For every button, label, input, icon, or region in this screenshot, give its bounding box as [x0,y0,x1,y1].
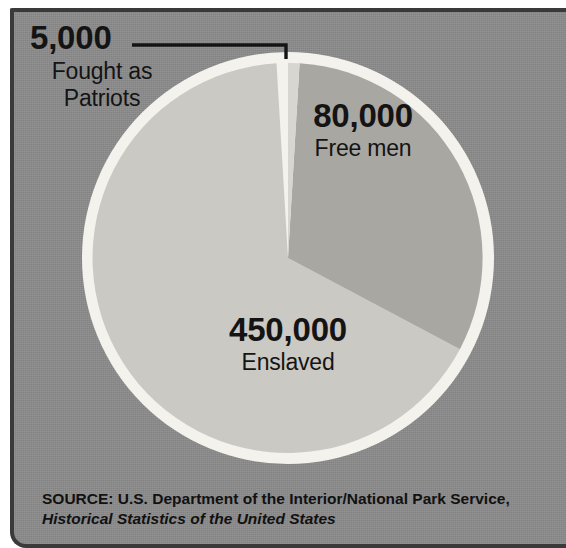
slice-value-free-men: 80,000 [268,98,458,134]
slice-value-enslaved: 450,000 [178,312,398,348]
figure-container: 5,000 Fought as Patriots 80,000 Free men… [0,0,566,548]
slice-value-patriots: 5,000 [22,20,182,56]
slice-caption-enslaved: Enslaved [178,350,398,375]
source-note: SOURCE: U.S. Department of the Interior/… [42,489,552,530]
slice-label-patriots: 5,000 Fought as Patriots [22,20,182,111]
slice-label-enslaved: 450,000 Enslaved [178,312,398,374]
slice-caption-patriots-line1: Fought as [22,59,182,84]
source-line-1: SOURCE: U.S. Department of the Interior/… [42,489,552,509]
slice-caption-free-men: Free men [268,136,458,161]
source-line-2: Historical Statistics of the United Stat… [42,509,552,529]
slice-caption-patriots-line2: Patriots [22,86,182,111]
slice-label-free-men: 80,000 Free men [268,98,458,160]
